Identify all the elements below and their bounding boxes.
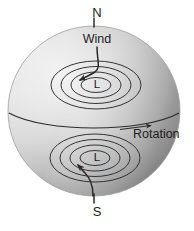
wind-label: Wind	[0, 33, 194, 46]
low-pressure-label-south: L	[0, 152, 194, 164]
north-pole-label: N	[0, 6, 194, 19]
earth-sphere	[8, 26, 180, 196]
diagram-canvas: N Wind L Rotation L S	[0, 0, 194, 231]
low-pressure-label-north: L	[0, 79, 194, 91]
sphere-rim-highlight	[8, 26, 180, 196]
south-pole-label: S	[0, 205, 194, 218]
rotation-label: Rotation	[133, 128, 180, 141]
